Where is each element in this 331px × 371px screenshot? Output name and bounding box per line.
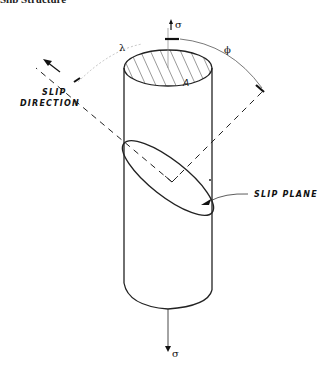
arrow-down-icon (165, 346, 171, 352)
cylinder-bottom-edge (124, 283, 212, 309)
center-dot (209, 179, 211, 181)
slip-cylinder-diagram: A σ σ ϕ λ (0, 0, 331, 371)
sigma-top-label: σ (175, 19, 182, 30)
slip-plane-pointer-line (210, 194, 248, 201)
lambda-end-marker (74, 78, 80, 82)
lambda-angle-arc (78, 44, 142, 82)
slip-direction-label-line1: SLIP (42, 88, 67, 97)
slip-plane-label: SLIP PLANE (254, 190, 318, 199)
arrow-pointer-icon (201, 199, 211, 205)
phi-end-marker (256, 85, 264, 92)
slip-direction-label-line2: DIRECTION (20, 99, 80, 108)
lambda-label: λ (119, 42, 126, 53)
phi-label: ϕ (224, 44, 231, 55)
phi-angle-arc (180, 39, 262, 88)
arrow-slip-direction-icon (43, 59, 60, 72)
area-label: A (182, 78, 189, 88)
sigma-bottom-label: σ (172, 348, 179, 359)
arrow-up-icon (169, 19, 173, 30)
right-angle-marker (165, 176, 178, 182)
area-a-hatched-top (120, 50, 218, 90)
diagram-page: Slip Structure (0, 0, 331, 371)
